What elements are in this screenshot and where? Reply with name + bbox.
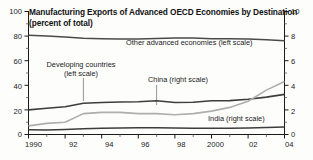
axes-group xyxy=(29,11,285,135)
series-line-other-advanced xyxy=(29,35,285,41)
series-line-india xyxy=(29,127,285,130)
chart-figure: Manufacturing Exports of Advanced OECD E… xyxy=(0,0,313,160)
chart-canvas xyxy=(0,0,313,160)
